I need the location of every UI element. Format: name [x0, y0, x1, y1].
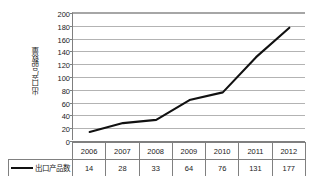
value-cell-2007: 28	[106, 160, 139, 177]
y-tick-140: 140	[44, 49, 70, 57]
category-cell-2007: 2007	[106, 143, 139, 160]
value-cell-2012: 177	[272, 160, 305, 177]
value-cell-2006: 14	[73, 160, 106, 177]
y-axis-label: 出口产品数量	[30, 28, 44, 114]
value-cell-2009: 64	[172, 160, 205, 177]
category-cell-2011: 2011	[239, 143, 272, 160]
value-cell-2011: 131	[239, 160, 272, 177]
line-marker-icon	[11, 167, 33, 169]
y-tick-60: 60	[44, 101, 70, 109]
legend-label: 出口产品数	[35, 164, 70, 173]
y-tick-40: 40	[44, 113, 70, 121]
y-tick-20: 20	[44, 126, 70, 134]
chart-container: 出口产品数量 200 180 160 140 120 100 80 60 40 …	[0, 0, 323, 176]
category-cell-2010: 2010	[206, 143, 239, 160]
table-corner-cell	[9, 143, 73, 160]
series-line-出口产品数	[73, 13, 306, 141]
y-tick-100: 100	[44, 75, 70, 83]
plot-region: 出口产品数量 200 180 160 140 120 100 80 60 40 …	[0, 0, 323, 142]
value-cell-2010: 76	[206, 160, 239, 177]
category-cell-2006: 2006	[73, 143, 106, 160]
legend-entry: 出口产品数	[9, 160, 73, 177]
table-row-categories: 2006 2007 2008 2009 2010 2011 2012	[9, 143, 306, 160]
y-tick-80: 80	[44, 88, 70, 96]
y-tick-180: 180	[44, 24, 70, 32]
category-cell-2009: 2009	[172, 143, 205, 160]
y-axis-tick-labels: 200 180 160 140 120 100 80 60 40 20 0	[44, 7, 70, 145]
value-cell-2008: 33	[139, 160, 172, 177]
y-tick-120: 120	[44, 62, 70, 70]
plot-area	[72, 12, 305, 140]
table-row-values: 出口产品数 14 28 33 64 76 131 177	[9, 160, 306, 177]
category-cell-2012: 2012	[272, 143, 305, 160]
data-table: 2006 2007 2008 2009 2010 2011 2012 出口产品数…	[8, 142, 306, 176]
y-tick-160: 160	[44, 37, 70, 45]
y-tick-200: 200	[44, 11, 70, 19]
category-cell-2008: 2008	[139, 143, 172, 160]
